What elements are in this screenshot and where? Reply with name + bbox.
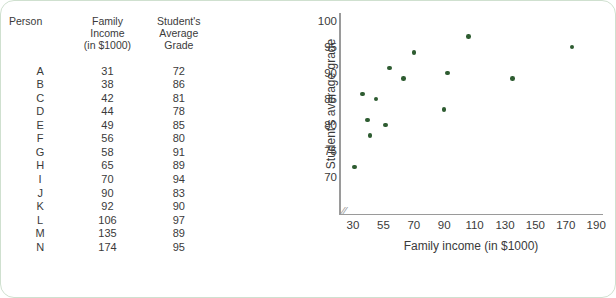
cell-average-grade: 81 [144, 92, 214, 106]
table-header-row: Person Family Income (in $1000) Student'… [9, 15, 214, 52]
data-point [365, 118, 370, 123]
cell-average-grade: 86 [144, 78, 214, 92]
table-body: A3172B3886C4281D4478E4985F5680G5891H6589… [9, 52, 214, 255]
data-point [466, 34, 471, 39]
cell-person: G [9, 146, 71, 160]
cell-person: I [9, 173, 71, 187]
data-point [445, 71, 450, 76]
table-row: N17495 [9, 241, 214, 255]
cell-family-income: 90 [71, 187, 143, 201]
data-point [352, 165, 357, 170]
cell-average-grade: 85 [144, 119, 214, 133]
column-header-income-line1: Family [71, 15, 143, 27]
column-header-person-line1: Person [9, 15, 71, 27]
data-point [442, 107, 447, 112]
cell-average-grade: 94 [144, 173, 214, 187]
x-tick-55: 55 [368, 219, 398, 231]
plot-area [339, 13, 601, 214]
cell-person: K [9, 200, 71, 214]
data-point [387, 66, 392, 71]
cell-family-income: 38 [71, 78, 143, 92]
cell-average-grade: 80 [144, 132, 214, 146]
column-header-income-line2: Income [71, 27, 143, 39]
table-row: M13589 [9, 227, 214, 241]
cell-person: F [9, 132, 71, 146]
cell-family-income: 58 [71, 146, 143, 160]
y-tick-70: 70 [311, 172, 337, 183]
y-tick-90: 90 [311, 68, 337, 79]
cell-person: M [9, 227, 71, 241]
cell-average-grade: 89 [144, 159, 214, 173]
cell-average-grade: 78 [144, 105, 214, 119]
data-point [368, 133, 373, 138]
table-row: F5680 [9, 132, 214, 146]
data-table-panel: Person Family Income (in $1000) Student'… [9, 15, 219, 254]
cell-family-income: 65 [71, 159, 143, 173]
column-header-person: Person [9, 15, 71, 52]
x-tick-110: 110 [460, 219, 490, 231]
data-point [401, 76, 406, 81]
scatter-chart-panel: Student's average grade 100959085807570 … [277, 1, 616, 298]
cell-person: A [9, 65, 71, 79]
table-spacer-row [9, 52, 214, 65]
cell-family-income: 49 [71, 119, 143, 133]
table-row: D4478 [9, 105, 214, 119]
data-point [360, 92, 365, 97]
cell-average-grade: 83 [144, 187, 214, 201]
cell-family-income: 92 [71, 200, 143, 214]
data-point [412, 50, 417, 55]
income-grade-table: Person Family Income (in $1000) Student'… [9, 15, 214, 254]
y-axis-tick-labels: 100959085807570 [303, 1, 337, 298]
column-header-student-grade: Student's Average Grade [144, 15, 214, 52]
column-header-family-income: Family Income (in $1000) [71, 15, 143, 52]
cell-person: B [9, 78, 71, 92]
data-point [510, 76, 515, 81]
table-row: K9290 [9, 200, 214, 214]
x-tick-150: 150 [520, 219, 550, 231]
cell-average-grade: 91 [144, 146, 214, 160]
cell-average-grade: 95 [144, 241, 214, 255]
x-tick-70: 70 [399, 219, 429, 231]
cell-person: H [9, 159, 71, 173]
column-header-income-line3: (in $1000) [71, 39, 143, 51]
cell-family-income: 135 [71, 227, 143, 241]
table-row: I7094 [9, 173, 214, 187]
table-row: B3886 [9, 78, 214, 92]
x-tick-30: 30 [338, 219, 368, 231]
cell-person: L [9, 214, 71, 228]
column-header-grade-line2: Average [144, 27, 214, 39]
cell-person: N [9, 241, 71, 255]
y-tick-95: 95 [311, 42, 337, 53]
x-tick-170: 170 [551, 219, 581, 231]
table-row: L10697 [9, 214, 214, 228]
cell-person: J [9, 187, 71, 201]
cell-family-income: 70 [71, 173, 143, 187]
table-row: J9083 [9, 187, 214, 201]
cell-average-grade: 89 [144, 227, 214, 241]
cell-average-grade: 97 [144, 214, 214, 228]
cell-average-grade: 90 [144, 200, 214, 214]
data-point [383, 123, 388, 128]
cell-average-grade: 72 [144, 65, 214, 79]
x-tick-130: 130 [490, 219, 520, 231]
table-header: Person Family Income (in $1000) Student'… [9, 15, 214, 52]
cell-person: C [9, 92, 71, 106]
figure-container: Person Family Income (in $1000) Student'… [0, 0, 616, 298]
cell-family-income: 42 [71, 92, 143, 106]
cell-family-income: 56 [71, 132, 143, 146]
table-row: G5891 [9, 146, 214, 160]
y-tick-75: 75 [311, 146, 337, 157]
cell-family-income: 174 [71, 241, 143, 255]
cell-person: D [9, 105, 71, 119]
table-row: A3172 [9, 65, 214, 79]
table-row: H6589 [9, 159, 214, 173]
data-point [374, 97, 379, 102]
table-row: E4985 [9, 119, 214, 133]
table-row: C4281 [9, 92, 214, 106]
cell-family-income: 106 [71, 214, 143, 228]
x-axis-label: Family income (in $1000) [331, 239, 611, 253]
column-header-grade-line1: Student's [144, 15, 214, 27]
column-header-grade-line3: Grade [144, 39, 214, 51]
cell-person: E [9, 119, 71, 133]
cell-family-income: 31 [71, 65, 143, 79]
